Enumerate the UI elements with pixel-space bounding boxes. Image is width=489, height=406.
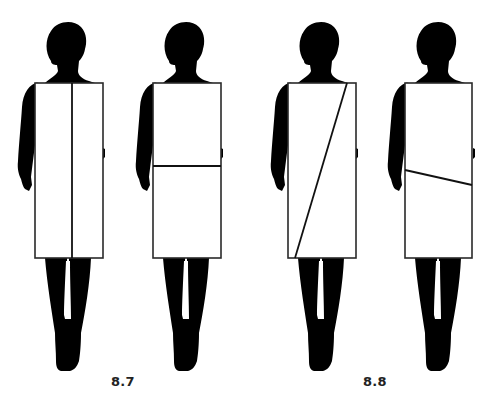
figure-caption-8-8: 8.8: [363, 374, 387, 389]
figure-3: [271, 22, 358, 371]
garment-rectangle: [153, 83, 221, 258]
figure-caption-8-7: 8.7: [111, 374, 135, 389]
garment-rectangle: [35, 83, 103, 258]
garment-rectangle: [405, 83, 472, 258]
figure-1: [18, 22, 105, 371]
figure-2: [136, 22, 223, 371]
figure-4: [388, 22, 475, 371]
garment-rectangle: [288, 83, 356, 258]
diagram-canvas: [0, 0, 489, 406]
